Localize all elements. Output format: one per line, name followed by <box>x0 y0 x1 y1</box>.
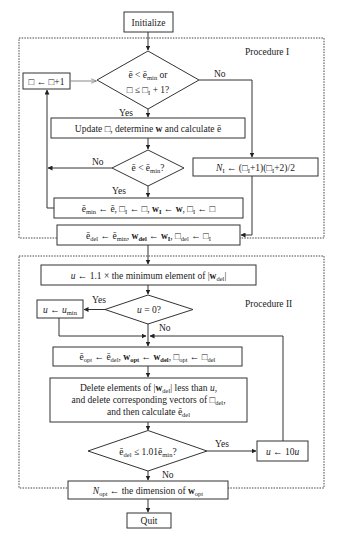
update-label: Update □, determine w and calculate ē <box>75 124 221 134</box>
decision-2-text: ē < ēmin? <box>132 163 165 174</box>
arrow-umin-to-merge <box>59 318 146 336</box>
delete-line1: Delete elements of |wdel| less than u, <box>80 383 217 394</box>
decision-1-no-label: No <box>214 69 226 79</box>
loop-back-to-increment <box>47 90 54 208</box>
n-opt-label: Nopt ← the dimension of wopt <box>92 486 204 497</box>
assign-opt-label: ēopt ← ēdel, wopt ← wdel, □opt ← □del <box>80 352 216 363</box>
decision-1-yes-label: Yes <box>119 108 133 118</box>
decision-2-no-label: No <box>92 157 104 167</box>
initialize-label: Initialize <box>132 18 166 28</box>
decision-3-no-label: No <box>162 470 174 480</box>
u-mult-label: u ← 10u <box>266 447 300 457</box>
flowchart: Procedure I Procedure II Initialize ē < … <box>0 0 339 540</box>
assign-min-label: ēmin ← ē, □I ← □, wI ← w, □I ← □ <box>82 204 216 215</box>
decision-u-text: u = 0? <box>137 305 161 315</box>
delete-line2: and delete corresponding vectors of □del… <box>71 395 225 406</box>
quit-label: Quit <box>141 516 158 526</box>
n1-label: NI ← (□I+1)(□I+2)/2 <box>215 163 295 174</box>
u-init-label: u ← 1.1 × the minimum element of |wdel| <box>71 271 227 282</box>
decision-u-no-label: No <box>159 323 171 333</box>
decision-3-yes-label: Yes <box>215 439 229 449</box>
decision-1-line2: □ ≤ □I + 1? <box>127 85 170 96</box>
procedure-2-title: Procedure II <box>245 299 292 309</box>
delete-line3: and then calculate ēdel <box>107 407 190 418</box>
decision-u-yes-label: Yes <box>92 295 106 305</box>
procedure-1-title: Procedure I <box>245 47 289 57</box>
assign-del-label: ēdel ← ēmin, wdel ← wI, □del ← □I <box>86 231 211 242</box>
increment-label: □ ← □+1 <box>29 77 65 87</box>
decision-2-yes-label: Yes <box>112 186 126 196</box>
